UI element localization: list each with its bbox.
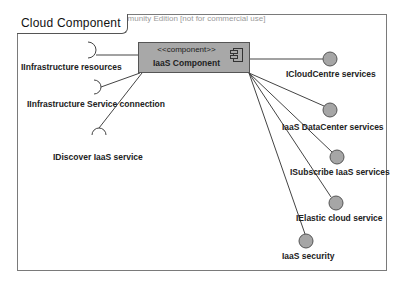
component-name: IaaS Component [139, 58, 234, 68]
lollipop-icon[interactable] [329, 196, 343, 210]
lollipop-icon[interactable] [330, 150, 344, 164]
provided-interface-label: IaaS DataCenter services [282, 122, 384, 132]
lollipop-icon[interactable] [299, 234, 313, 248]
provided-interface-label: ICloudCentre services [286, 69, 376, 79]
provided-interface-label: ISubscribe IaaS services [290, 167, 390, 177]
component-icon [233, 48, 243, 62]
required-interface-label: IDiscover IaaS service [53, 152, 143, 162]
required-interface-label: IInfrastructure resources [21, 62, 122, 72]
socket-icon [94, 80, 101, 94]
lollipop-icon[interactable] [323, 103, 337, 117]
connector-line [249, 73, 332, 152]
socket-icon [88, 42, 96, 58]
iaas-component[interactable]: <<component>> IaaS Component [138, 42, 250, 73]
socket-icon [92, 128, 106, 135]
connector-line [249, 73, 305, 234]
lollipop-icon[interactable] [323, 52, 337, 66]
connector-line [249, 73, 331, 197]
component-stereotype: <<component>> [139, 45, 234, 54]
required-interface-label: IInfrastructure Service connection [27, 99, 165, 109]
provided-interface-label: IaaS security [282, 251, 334, 261]
connector-line [101, 73, 140, 87]
provided-interface-label: IElastic cloud service [296, 213, 382, 223]
